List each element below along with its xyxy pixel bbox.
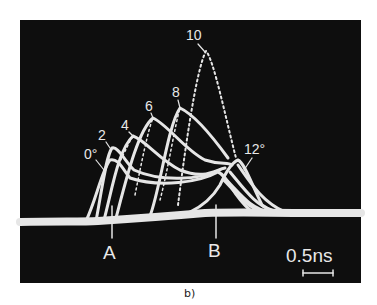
marker-b-label: B bbox=[208, 241, 221, 260]
curve-label-6: 6 bbox=[145, 99, 153, 113]
oscilloscope-figure: 0° 2 4 6 8 10 12° A B 0.5ns b) bbox=[0, 0, 377, 305]
marker-a-label: A bbox=[103, 243, 116, 262]
figure-caption: b) bbox=[184, 287, 195, 300]
scale-bar-label: 0.5ns bbox=[286, 246, 332, 265]
curve-label-10: 10 bbox=[186, 28, 202, 42]
curve-label-0: 0° bbox=[84, 147, 97, 161]
curve-label-4: 4 bbox=[121, 118, 129, 132]
curve-label-8: 8 bbox=[172, 85, 180, 99]
curve-label-12: 12° bbox=[244, 142, 265, 156]
curve-label-2: 2 bbox=[98, 128, 106, 142]
